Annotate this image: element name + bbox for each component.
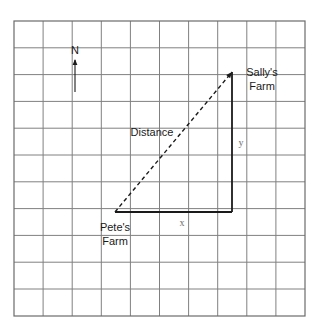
- figure-background: [0, 0, 323, 333]
- distance-diagram-figure: N Distance x y Pete's Farm Sally's Farm: [0, 0, 323, 333]
- distance-label: Distance: [131, 126, 174, 138]
- diagram-canvas: N Distance x y Pete's Farm Sally's Farm: [0, 0, 323, 333]
- y-leg-label: y: [239, 137, 244, 148]
- sallys-farm-label-line2: Farm: [249, 80, 275, 92]
- compass-north-label: N: [71, 44, 79, 56]
- sallys-farm-label-line1: Sally's: [246, 66, 278, 78]
- x-leg-label: x: [180, 217, 185, 228]
- petes-farm-label-line2: Farm: [102, 235, 128, 247]
- petes-farm-label-line1: Pete's: [100, 221, 131, 233]
